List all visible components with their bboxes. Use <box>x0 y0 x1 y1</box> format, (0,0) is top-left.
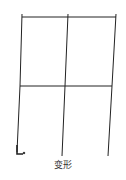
middle-column <box>62 14 68 156</box>
deformed-frame-diagram <box>0 0 126 180</box>
left-column <box>17 14 22 152</box>
right-column <box>108 14 116 156</box>
diagram-caption: 变形 <box>0 158 126 171</box>
support-dot <box>23 152 25 154</box>
support-hook-icon <box>17 145 23 154</box>
